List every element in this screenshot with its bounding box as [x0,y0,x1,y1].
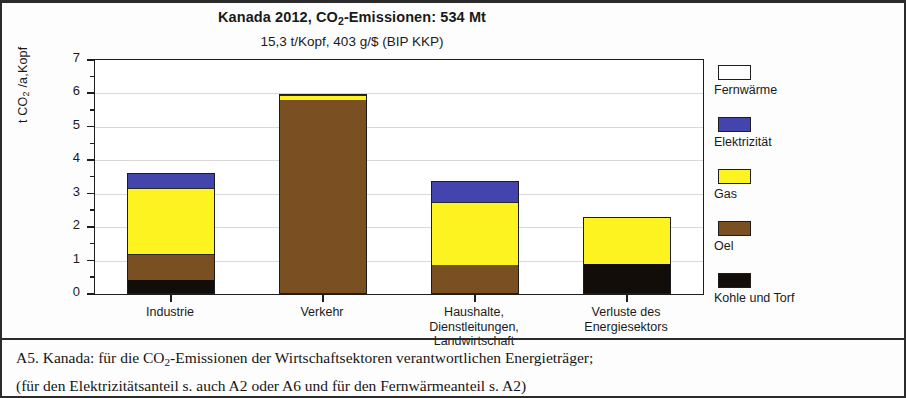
gridline [95,127,703,128]
legend-swatch [718,221,751,236]
x-tick [322,295,324,302]
x-tick [626,295,628,302]
y-tick-label: 4 [48,150,80,165]
bar-segment [583,264,671,294]
y-tick-major [87,159,94,161]
bar-segment [583,217,671,263]
x-category-label-line: Verluste des [531,305,721,320]
y-tick-label: 7 [48,50,80,65]
x-category-label: Verluste desEnergiesektors [531,305,721,334]
legend-item: Elektrizität [714,117,900,154]
x-category-label-line: Energiesektors [531,320,721,335]
legend-label: Elektrizität [714,134,900,151]
x-tick [170,295,172,302]
y-axis-title-subscript: 2 [21,91,31,96]
plot-area: t CO2 /a,Kopf 01234567 IndustrieVerkehrH… [2,3,702,343]
bar-segment [431,202,519,266]
bar [127,173,215,294]
caption-line-1: A5. Kanada: für die CO2-Emissionen der W… [16,346,894,374]
legend-label: Kohle und Torf [714,290,900,307]
bar-segment [431,181,519,202]
gridline [95,93,703,94]
gridline [95,160,703,161]
legend-swatch [718,65,751,80]
x-tick [474,295,476,302]
legend-item: Oel [714,221,900,258]
legend-label: Oel [714,238,900,255]
caption-line-1-pre: A5. Kanada: für die CO [16,349,165,366]
y-tick-label: 0 [48,284,80,299]
y-tick-major [87,92,94,94]
bar [279,94,367,294]
y-axis-title-post: /a,Kopf [16,47,30,92]
y-tick-major [87,260,94,262]
bar-segment [127,173,215,188]
legend-swatch [718,169,751,184]
legend-label: Gas [714,186,900,203]
bar-segment [279,100,367,294]
y-tick-label: 2 [48,217,80,232]
legend-item: Fernwärme [714,65,900,102]
caption-line-2: (für den Elektrizitätsanteil s. auch A2 … [16,374,894,397]
plot-frame [94,59,704,295]
legend: FernwärmeElektrizitätGasOelKohle und Tor… [714,65,900,325]
y-tick-label: 3 [48,184,80,199]
y-tick-label: 1 [48,251,80,266]
y-tick-label: 5 [48,117,80,132]
legend-item: Kohle und Torf [714,273,900,310]
bar-segment [431,265,519,294]
bar [431,181,519,294]
bar-segment [127,188,215,255]
y-tick-major [87,226,94,228]
legend-swatch [718,117,751,132]
legend-label: Fernwärme [714,82,900,99]
caption-line-1-post: -Emissionen der Wirtschaftsektoren veran… [170,349,593,366]
legend-item: Gas [714,169,900,206]
bar-segment [127,254,215,280]
y-tick-major [87,293,94,295]
legend-swatch [718,273,751,288]
y-tick-major [87,126,94,128]
y-axis-title: t CO2 /a,Kopf [16,3,31,123]
bar-segment [127,280,215,294]
figure-caption: A5. Kanada: für die CO2-Emissionen der W… [2,338,904,396]
y-axis-title-pre: t CO [16,97,30,124]
y-tick-major [87,59,94,61]
y-tick-major [87,193,94,195]
figure-panel: Kanada 2012, CO2-Emissionen: 534 Mt 15,3… [0,0,906,398]
bar-segment [279,95,367,101]
y-tick-label: 6 [48,83,80,98]
bar [583,217,671,294]
